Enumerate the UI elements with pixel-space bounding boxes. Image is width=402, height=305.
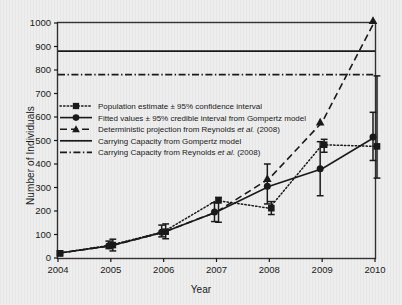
- marker-square: [215, 197, 222, 204]
- y-tick-label: 300: [35, 182, 51, 193]
- y-tick-label: 0: [46, 252, 51, 263]
- y-tick-label: 700: [35, 88, 51, 99]
- x-axis-ticks: 2004200520062007200820092010: [47, 258, 385, 275]
- figure-container: 01002003004005006007008009001000 2004200…: [0, 0, 402, 305]
- y-axis-title: Number of Individuals: [25, 106, 36, 205]
- y-tick-label: 1000: [30, 17, 51, 28]
- x-tick-label: 2009: [312, 264, 333, 275]
- legend-item-label: Population estimate ± 95% confidence int…: [98, 102, 262, 111]
- marker-circle: [317, 165, 324, 172]
- y-tick-label: 100: [35, 229, 51, 240]
- marker-square: [268, 205, 275, 212]
- x-tick-label: 2004: [47, 264, 68, 275]
- x-tick-label: 2006: [153, 264, 174, 275]
- marker-square: [57, 250, 64, 257]
- y-tick-label: 400: [35, 158, 51, 169]
- y-tick-label: 500: [35, 135, 51, 146]
- marker-square: [73, 103, 79, 109]
- marker-circle: [105, 242, 112, 249]
- y-tick-label: 200: [35, 205, 51, 216]
- x-tick-label: 2010: [364, 264, 385, 275]
- chart-legend: Population estimate ± 95% confidence int…: [60, 102, 306, 157]
- marker-triangle: [316, 118, 325, 126]
- chart-canvas: 01002003004005006007008009001000 2004200…: [0, 0, 402, 305]
- x-tick-label: 2007: [206, 264, 227, 275]
- marker-triangle: [263, 174, 272, 182]
- legend-item-label: Deterministic projection from Reynolds e…: [98, 125, 280, 134]
- y-tick-label: 600: [35, 111, 51, 122]
- marker-circle: [370, 133, 377, 140]
- x-axis-title: Year: [0, 284, 402, 295]
- legend-item-label: Fitted values ± 95% credible interval fr…: [98, 114, 306, 123]
- marker-triangle: [369, 16, 378, 24]
- legend-item-label: Carrying Capacity from Reynolds et al. (…: [98, 148, 261, 157]
- marker-circle: [158, 229, 165, 236]
- marker-circle: [264, 183, 271, 190]
- y-tick-label: 900: [35, 41, 51, 52]
- x-tick-label: 2005: [100, 264, 121, 275]
- marker-circle: [211, 208, 218, 215]
- marker-square: [321, 141, 328, 148]
- x-tick-label: 2008: [259, 264, 280, 275]
- marker-square: [374, 143, 381, 150]
- reference-lines: [58, 51, 375, 74]
- y-tick-label: 800: [35, 64, 51, 75]
- legend-item-label: Carrying Capacity from Gompertz model: [98, 137, 241, 146]
- marker-circle: [73, 114, 80, 121]
